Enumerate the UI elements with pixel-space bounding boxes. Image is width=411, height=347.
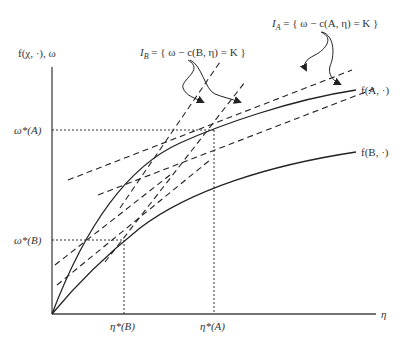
isocost-IB-upper bbox=[120, 62, 220, 208]
isocost-IA-label-rest: = { ω − c(A, η) = K } bbox=[281, 17, 379, 30]
curve-f-A bbox=[52, 90, 356, 314]
arrow-IA-1 bbox=[305, 32, 328, 70]
curve-f-B-label: f(B, ·) bbox=[361, 146, 389, 159]
isocost-IA-label: IA = { ω − c(A, η) = K } bbox=[271, 17, 378, 32]
isocost-IB-label-rest: = { ω − c(B, η) = K } bbox=[149, 46, 246, 59]
isocost-IA-left-lower bbox=[57, 160, 210, 285]
isocost-IB-lower bbox=[105, 82, 245, 262]
curve-f-B bbox=[52, 152, 356, 314]
omega-star-B-label: ω*(B) bbox=[14, 234, 42, 247]
isocost-IA-upper bbox=[68, 70, 352, 180]
arrow-IB-1 bbox=[183, 60, 203, 102]
omega-star-A-label: ω*(A) bbox=[14, 124, 42, 137]
eta-star-A-label: η*(A) bbox=[200, 320, 225, 333]
arrow-IA-2 bbox=[322, 32, 340, 84]
arrow-IB-2 bbox=[190, 60, 240, 102]
x-axis-label: η bbox=[381, 308, 386, 320]
curve-f-A-label: f(A, ·) bbox=[361, 84, 389, 97]
y-axis-label: f(χ, ·), ω bbox=[18, 47, 56, 60]
diagram-canvas: f(χ, ·), ω η f(A, ·) f(B, ·) ω*(A) ω*(B)… bbox=[0, 0, 411, 347]
isocost-IB-label: IB = { ω − c(B, η) = K } bbox=[139, 46, 246, 61]
eta-star-B-label: η*(B) bbox=[110, 320, 135, 333]
